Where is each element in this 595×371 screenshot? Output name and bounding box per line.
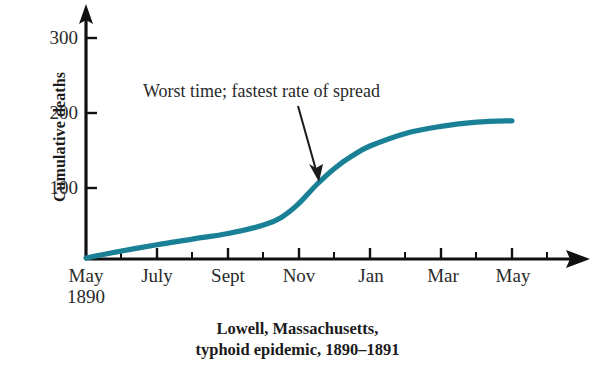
- x-axis-ticks: [121, 248, 547, 259]
- y-axis-title: Cumulative deaths: [51, 37, 69, 237]
- x-tick-label-nov: Nov: [259, 265, 339, 286]
- x-tick-label-may-1890: May: [46, 265, 126, 286]
- x-tick-label-july: July: [117, 265, 197, 286]
- x-tick-label-may-1891: May: [473, 265, 553, 286]
- chart-figure: Cumulative deaths 300 200 100 May 1890 J…: [0, 0, 595, 371]
- chart-annotation-label: Worst time; fastest rate of spread: [143, 80, 380, 102]
- y-axis: [79, 4, 93, 259]
- chart-canvas: [0, 0, 595, 371]
- y-tick-label-100: 100: [18, 178, 78, 197]
- caption-line-2: typhoid epidemic, 1890–1891: [0, 339, 595, 360]
- y-tick-label-300: 300: [18, 28, 78, 47]
- annotation-leader: [298, 106, 323, 182]
- x-tick-sublabel-year: 1890: [46, 286, 126, 307]
- y-axis-ticks: [86, 38, 97, 188]
- chart-caption: Lowell, Massachusetts, typhoid epidemic,…: [0, 318, 595, 360]
- caption-line-1: Lowell, Massachusetts,: [0, 318, 595, 339]
- x-tick-label-sept: Sept: [188, 265, 268, 286]
- cumulative-deaths-curve: [86, 121, 512, 258]
- x-tick-label-jan: Jan: [331, 265, 411, 286]
- y-tick-label-200: 200: [18, 103, 78, 122]
- x-tick-label-mar: Mar: [403, 265, 483, 286]
